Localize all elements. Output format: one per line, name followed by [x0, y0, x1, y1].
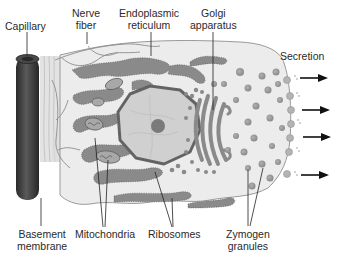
label-nerve-fiber: Nerve fiber	[72, 7, 100, 31]
capillary	[16, 55, 39, 201]
label-mitochondria: Mitochondria	[75, 228, 135, 240]
secretion-arrows	[300, 74, 331, 179]
label-ribosomes: Ribosomes	[148, 228, 201, 240]
label-secretion: Secretion	[280, 50, 324, 62]
label-capillary: Capillary	[5, 20, 46, 32]
arrow-icon	[302, 106, 330, 114]
cell-illustration	[0, 0, 338, 253]
arrow-icon	[301, 171, 329, 179]
label-basement-membrane: Basement membrane	[17, 228, 67, 252]
label-endoplasmic-reticulum: Endoplasmic reticulum	[119, 7, 179, 31]
secretion-dots	[294, 75, 301, 176]
diagram-stage: Capillary Nerve fiber Endoplasmic reticu…	[0, 0, 338, 253]
label-golgi-apparatus: Golgi apparatus	[190, 7, 237, 31]
label-zymogen-granules: Zymogen granules	[226, 228, 270, 252]
nucleolus	[151, 119, 165, 133]
arrow-icon	[300, 74, 328, 82]
arrow-icon	[303, 133, 331, 141]
